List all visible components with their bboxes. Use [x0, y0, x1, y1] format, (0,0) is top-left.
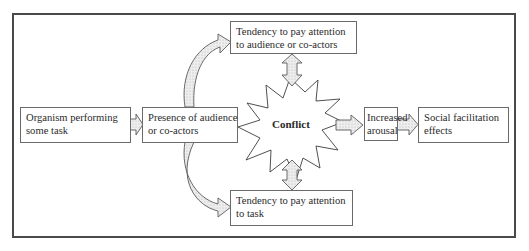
node-attention-to-task: Tendency to pay attention to task	[230, 190, 353, 226]
node-label-line2: some task	[26, 125, 125, 138]
node-organism-performing-task: Organism performing some task	[20, 107, 131, 143]
node-label-line2: or co-actors	[148, 125, 232, 138]
node-social-facilitation-effects: Social facilitation effects	[418, 107, 509, 143]
node-label-line2: arousal	[367, 125, 395, 138]
node-label-line1: Organism performing	[26, 112, 125, 125]
arrow-conflict-to-arousal	[336, 115, 363, 135]
node-label-line2: to task	[236, 208, 347, 221]
node-label-line1: Tendency to pay attention	[236, 195, 347, 208]
node-label-line1: Increased	[367, 112, 395, 125]
node-presence-of-audience: Presence of audience or co-actors	[142, 107, 238, 143]
node-increased-arousal: Increased arousal	[364, 107, 398, 141]
curved-arrow-presence-to-task-attention	[184, 142, 231, 217]
node-label-line2: to audience or co-actors	[236, 39, 351, 52]
double-arrow-audience-attention-conflict	[282, 54, 302, 86]
node-conflict-label: Conflict	[272, 118, 310, 130]
node-label-line1: Social facilitation	[424, 112, 503, 125]
node-label-line2: effects	[424, 125, 503, 138]
curved-arrow-presence-to-audience-attention	[184, 34, 231, 107]
node-label-line1: Presence of audience	[148, 112, 232, 125]
node-label-line1: Tendency to pay attention	[236, 26, 351, 39]
node-attention-to-audience: Tendency to pay attention to audience or…	[230, 21, 357, 54]
